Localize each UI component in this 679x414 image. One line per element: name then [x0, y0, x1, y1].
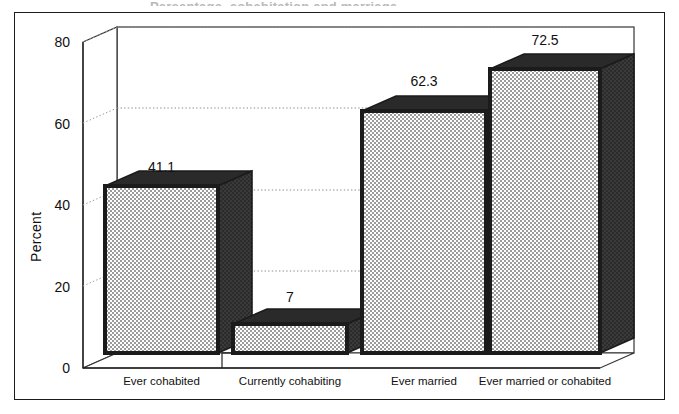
chart-canvas: [0, 0, 679, 414]
xtick-label-currently-cohabiting: Currently cohabiting: [226, 375, 354, 387]
ytick-label-0: 0: [36, 361, 70, 375]
bar-value-label-3: 62.3: [362, 74, 486, 88]
xtick-label-ever-married: Ever married: [366, 375, 482, 387]
bar-ever-married-or-cohabited[interactable]: [490, 54, 634, 353]
ytick-label-60: 60: [36, 117, 70, 131]
ytick-label-20: 20: [36, 280, 70, 294]
bar-currently-cohabiting[interactable]: [233, 309, 381, 353]
bar-value-label-1: 41.1: [105, 160, 218, 174]
bar-value-label-2: 7: [233, 290, 347, 304]
y-axis-title: Percent: [28, 212, 44, 262]
bar-value-label-4: 72.5: [483, 33, 607, 47]
bar-ever-cohabited[interactable]: [105, 171, 252, 353]
xtick-label-ever-cohabited: Ever cohabited: [105, 375, 218, 387]
ytick-label-40: 40: [36, 198, 70, 212]
ytick-label-80: 80: [36, 35, 70, 49]
chart-figure: Percentage, cohabitation and marriage: [0, 0, 679, 414]
xtick-label-ever-married-or-cohabited: Ever married or cohabited: [477, 375, 613, 387]
